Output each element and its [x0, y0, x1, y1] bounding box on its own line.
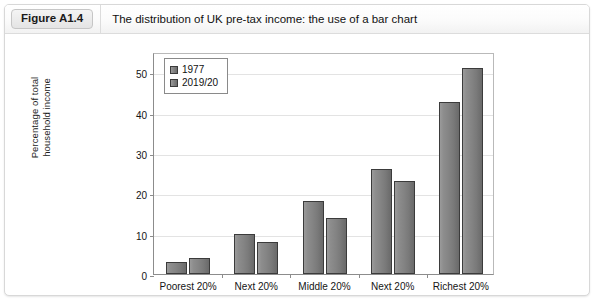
legend-item: 1977	[170, 63, 218, 76]
figure-card: Figure A1.4 The distribution of UK pre-t…	[4, 4, 590, 296]
chart-area: Percentage of total household income 010…	[5, 34, 591, 296]
y-axis-tick-label: 10	[136, 230, 147, 241]
legend-label: 1977	[182, 64, 204, 75]
y-axis-title-line2: household income	[40, 53, 52, 183]
bar-group	[303, 54, 347, 274]
x-axis-tick	[427, 274, 428, 278]
bar	[394, 181, 415, 274]
y-axis-title-line1: Percentage of total	[29, 53, 41, 183]
plot-frame: 01020304050 Poorest 20%Next 20%Middle 20…	[153, 53, 494, 275]
bar	[257, 242, 278, 274]
bar	[189, 258, 210, 274]
x-axis-tick-label: Poorest 20%	[159, 281, 216, 292]
x-axis-tick	[359, 274, 360, 278]
bar	[462, 68, 483, 274]
x-axis-tick-label: Middle 20%	[298, 281, 350, 292]
x-axis-tick-label: Next 20%	[371, 281, 414, 292]
y-axis-tick-label: 20	[136, 190, 147, 201]
bar-group	[439, 54, 483, 274]
gridline	[154, 276, 493, 277]
y-axis-tick-label: 30	[136, 149, 147, 160]
x-axis-tick	[222, 274, 223, 278]
bar	[439, 102, 460, 274]
figure-number-badge: Figure A1.4	[11, 9, 93, 30]
y-axis-tick-label: 40	[136, 109, 147, 120]
y-axis-title: Percentage of total household income	[29, 53, 52, 183]
x-axis-tick-label: Next 20%	[235, 281, 278, 292]
y-axis-tick	[150, 276, 154, 277]
bar	[166, 262, 187, 274]
figure-header: Figure A1.4 The distribution of UK pre-t…	[5, 5, 589, 34]
header-divider	[100, 5, 101, 34]
x-axis-tick	[290, 274, 291, 278]
bar-group	[371, 54, 415, 274]
bar-group	[234, 54, 278, 274]
legend-swatch-icon	[170, 66, 178, 74]
y-axis-tick-label: 0	[141, 271, 147, 282]
bar	[371, 169, 392, 274]
chart-legend: 19772019/20	[164, 58, 228, 94]
bar	[234, 234, 255, 274]
figure-title: The distribution of UK pre-tax income: t…	[112, 13, 417, 25]
legend-label: 2019/20	[182, 77, 218, 88]
legend-item: 2019/20	[170, 76, 218, 89]
bar	[303, 201, 324, 274]
y-axis-tick-label: 50	[136, 69, 147, 80]
bar	[326, 218, 347, 275]
legend-swatch-icon	[170, 79, 178, 87]
x-axis-tick-label: Richest 20%	[433, 281, 489, 292]
